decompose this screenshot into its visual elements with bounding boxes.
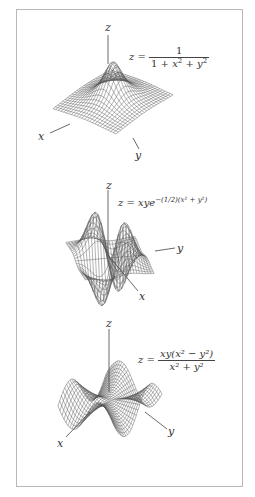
z-axis-label-3: z bbox=[106, 318, 112, 329]
formula-1: z = 1 1 + x2 + y2 bbox=[129, 46, 209, 69]
formula-3-fraction: xy(x² − y²) x² + y² bbox=[158, 349, 215, 372]
formula-2: z = xye−(1/2)(x² + y²) bbox=[118, 198, 207, 208]
x-axis-label-3: x bbox=[57, 438, 63, 449]
formula-1-fraction: 1 1 + x2 + y2 bbox=[149, 46, 209, 69]
y-axis-label-2: y bbox=[177, 243, 183, 254]
z-axis-label-1: z bbox=[105, 22, 111, 33]
x-axis-label-2: x bbox=[139, 291, 145, 302]
surface-plot-3 bbox=[58, 329, 167, 437]
surface-plots-canvas bbox=[0, 0, 255, 497]
y-axis-label-1: y bbox=[135, 150, 141, 161]
x-axis-label-1: x bbox=[38, 131, 44, 142]
y-axis-label-3: y bbox=[168, 426, 174, 437]
z-axis-label-2: z bbox=[106, 180, 112, 191]
formula-3: z = xy(x² − y²) x² + y² bbox=[138, 349, 215, 372]
